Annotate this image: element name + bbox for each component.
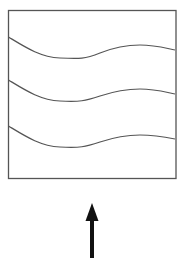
wave-line-1 — [9, 37, 176, 58]
arrow-head — [86, 203, 99, 221]
diagram-canvas — [0, 0, 188, 264]
wave-line-3 — [9, 126, 176, 147]
up-arrow-icon — [86, 203, 99, 258]
wave-line-2 — [9, 80, 176, 101]
